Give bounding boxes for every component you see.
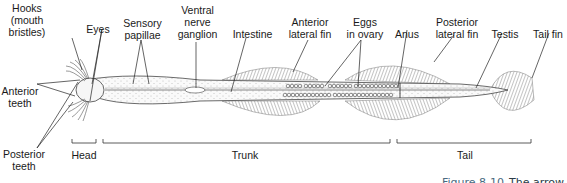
posterior-lateral-fin-upper bbox=[345, 66, 450, 84]
label-posterior-teeth: Posterior teeth bbox=[2, 148, 46, 172]
head bbox=[76, 78, 104, 102]
region-label-head: Head bbox=[70, 149, 98, 161]
region-label-trunk: Trunk bbox=[225, 149, 265, 161]
figure-number: Figure 8-10 bbox=[442, 176, 504, 183]
figure-title: The arrow bbox=[509, 176, 564, 183]
label-ventral-nerve-ganglion: Ventral nerve ganglion bbox=[170, 4, 225, 40]
label-eyes: Eyes bbox=[78, 23, 118, 35]
region-brackets bbox=[72, 139, 531, 143]
label-eggs-in-ovary: Eggs in ovary bbox=[340, 16, 390, 40]
label-tail-fin: Tail fin bbox=[528, 28, 567, 40]
figure-caption: Figure 8-10The arrow bbox=[428, 163, 564, 183]
label-anus: Anus bbox=[392, 28, 422, 40]
label-hooks: Hooks (mouth bristles) bbox=[2, 2, 52, 38]
label-testis: Testis bbox=[490, 28, 520, 40]
region-label-tail: Tail bbox=[450, 149, 480, 161]
label-sensory-papillae: Sensory papillae bbox=[115, 17, 170, 41]
posterior-lateral-fin-lower bbox=[345, 98, 450, 120]
label-intestine: Intestine bbox=[225, 28, 280, 40]
label-anterior-lateral-fin: Anterior lateral fin bbox=[280, 16, 340, 40]
anterior-lateral-fin-lower bbox=[222, 101, 320, 116]
label-posterior-lateral-fin: Posterior lateral fin bbox=[426, 16, 488, 40]
label-anterior-teeth: Anterior teeth bbox=[0, 85, 40, 109]
arrow-worm-diagram: Hooks (mouth bristles) Eyes Sensory papi… bbox=[0, 0, 567, 183]
